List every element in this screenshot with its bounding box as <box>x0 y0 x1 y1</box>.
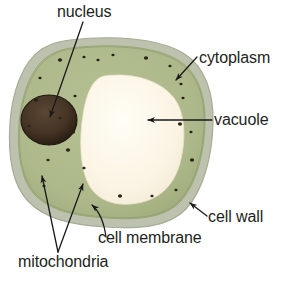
mitochondrion-dot <box>111 54 114 57</box>
mitochondrion-dot <box>34 98 38 102</box>
mitochondrion-dot <box>150 195 153 198</box>
mitochondrion-dot <box>96 59 99 62</box>
label-cell-membrane: cell membrane <box>98 230 202 246</box>
label-cell-wall: cell wall <box>208 209 263 225</box>
leader-cell-wall <box>190 203 207 216</box>
mitochondrion-dot <box>118 194 122 198</box>
mitochondrion-dot <box>144 56 148 60</box>
label-vacuole: vacuole <box>214 112 268 128</box>
label-nucleus: nucleus <box>57 4 111 20</box>
mitochondrion-dot <box>174 189 177 192</box>
mitochondrion-dot <box>181 97 184 100</box>
mitochondrion-dot <box>82 167 85 170</box>
mitochondrion-dot <box>168 65 171 68</box>
mitochondrion-dot <box>190 158 194 162</box>
mitochondrion-dot <box>58 117 61 120</box>
mitochondrion-dot <box>27 125 30 128</box>
mitochondrion-dot <box>66 148 70 152</box>
mitochondrion-dot <box>73 95 76 98</box>
label-cytoplasm: cytoplasm <box>199 50 270 66</box>
label-mitochondria: mitochondria <box>18 254 108 270</box>
mitochondrion-dot <box>179 83 182 86</box>
nucleus-shape <box>21 95 77 145</box>
mitochondrion-dot <box>38 77 41 80</box>
mitochondrion-dot <box>71 130 75 134</box>
mitochondrion-dot <box>82 56 85 59</box>
vacuole-shape <box>81 75 184 204</box>
mitochondrion-dot <box>178 122 182 126</box>
mitochondrion-dot <box>46 159 49 162</box>
mitochondrion-dot <box>189 131 192 134</box>
mitochondrion-dot <box>58 58 62 62</box>
cell-diagram: nucleus cytoplasm vacuole cell wall cell… <box>0 0 293 287</box>
